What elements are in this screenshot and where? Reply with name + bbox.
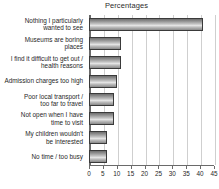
x-tick (214, 166, 215, 169)
x-tick (186, 166, 187, 169)
category-label: Not open when I havetime to visit (0, 109, 86, 128)
bars-layer (89, 15, 214, 166)
bar (89, 112, 114, 125)
bar-row (89, 91, 214, 110)
x-tick-label: 5 (101, 170, 105, 177)
x-tick-label: 20 (141, 170, 148, 177)
category-label-line: wanted to see (25, 24, 83, 31)
bar-row (89, 53, 214, 72)
category-label-line: places (25, 43, 83, 50)
x-tick-label: 40 (197, 170, 204, 177)
category-label: My children wouldn'tbe interested (0, 128, 86, 147)
chart-title: Percentages (0, 1, 219, 10)
category-label-line: health reasons (11, 62, 83, 69)
x-axis: 051015202530354045 (89, 166, 214, 188)
category-label: No time / too busy (0, 147, 86, 166)
x-tick (131, 166, 132, 169)
category-label-line: Nothing I particularly (25, 17, 83, 24)
bar-row (89, 15, 214, 34)
bar-row (89, 128, 214, 147)
x-tick (200, 166, 201, 169)
category-label-line: too far to travel (24, 100, 83, 107)
category-axis-labels: Nothing I particularlywanted to seeMuseu… (0, 15, 86, 166)
category-label-line: No time / too busy (31, 153, 83, 160)
bar (89, 131, 107, 144)
x-tick-label: 25 (155, 170, 162, 177)
x-tick-label: 30 (169, 170, 176, 177)
bar (89, 18, 203, 31)
category-label-line: Poor local transport / (24, 93, 83, 100)
bar (89, 37, 121, 50)
bar-row (89, 34, 214, 53)
bar (89, 56, 121, 69)
category-label-line: Museums are boring (25, 36, 83, 43)
x-tick (103, 166, 104, 169)
bar (89, 75, 117, 88)
bar (89, 150, 107, 163)
category-label-line: My children wouldn't (25, 130, 83, 137)
bar-row (89, 109, 214, 128)
x-tick (172, 166, 173, 169)
bar-chart: Percentages Nothing I particularlywanted… (0, 0, 219, 189)
category-label: Poor local transport /too far to travel (0, 91, 86, 110)
category-label-line: Admission charges too high (4, 77, 83, 84)
x-tick-label: 10 (113, 170, 120, 177)
category-label: Nothing I particularlywanted to see (0, 15, 86, 34)
x-tick-label: 45 (210, 170, 217, 177)
x-tick (117, 166, 118, 169)
category-label: Admission charges too high (0, 72, 86, 91)
x-tick (89, 166, 90, 169)
category-label: Museums are boringplaces (0, 34, 86, 53)
bar (89, 93, 114, 106)
category-label-line: I find it difficult to get out / (11, 55, 83, 62)
category-label-line: Not open when I have (21, 111, 83, 118)
bar-row (89, 72, 214, 91)
x-tick-label: 0 (87, 170, 91, 177)
category-label-line: be interested (25, 138, 83, 145)
x-tick-label: 15 (127, 170, 134, 177)
bar-row (89, 147, 214, 166)
x-tick (158, 166, 159, 169)
x-tick-label: 35 (183, 170, 190, 177)
category-label-line: time to visit (21, 119, 83, 126)
x-tick (145, 166, 146, 169)
gridline-45 (215, 15, 216, 165)
category-label: I find it difficult to get out /health r… (0, 53, 86, 72)
